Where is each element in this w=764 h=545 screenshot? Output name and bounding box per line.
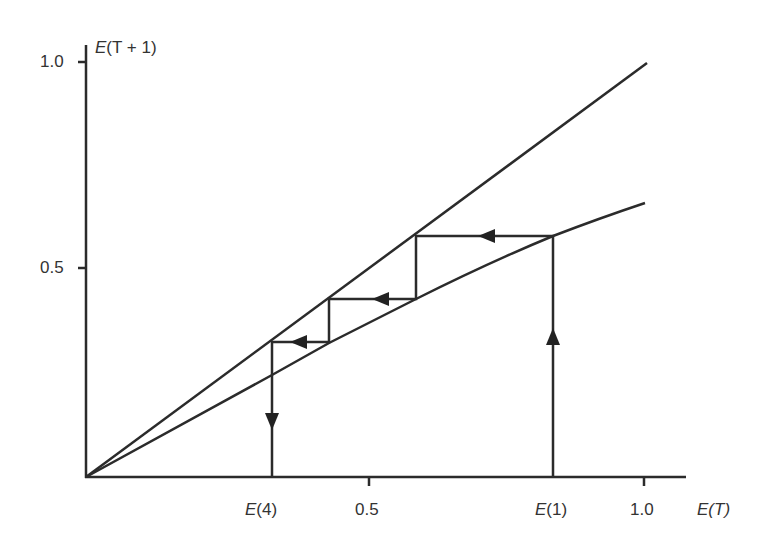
arrow-left-icon [290, 335, 307, 349]
diagonal-line [86, 63, 647, 477]
y-tick-label-05: 0.5 [40, 258, 64, 278]
x-marker-e1: E(1) [535, 500, 567, 520]
y-label-var: E [95, 38, 106, 57]
y-tick-label-1: 1.0 [40, 52, 64, 72]
cobweb-path [272, 236, 553, 477]
arrow-left-icon [372, 292, 389, 306]
x-label-var: E [697, 500, 708, 519]
marker-var: E [245, 500, 256, 519]
x-axis-label: E(T) [697, 500, 730, 520]
arrow-up-icon [546, 328, 560, 345]
arrow-down-icon [265, 413, 279, 430]
marker-var: E [535, 500, 546, 519]
y-axis-label: E(T + 1) [95, 38, 157, 58]
cobweb-diagram [0, 0, 764, 545]
arrow-left-icon [478, 229, 495, 243]
x-tick-label-1: 1.0 [630, 500, 654, 520]
x-marker-e4: E(4) [245, 500, 277, 520]
marker-arg: (4) [256, 500, 277, 519]
marker-arg: (1) [546, 500, 567, 519]
x-label-arg: (T) [708, 500, 730, 519]
y-label-arg: (T + 1) [106, 38, 156, 57]
transition-curve [86, 203, 645, 477]
x-tick-label-05: 0.5 [355, 500, 379, 520]
